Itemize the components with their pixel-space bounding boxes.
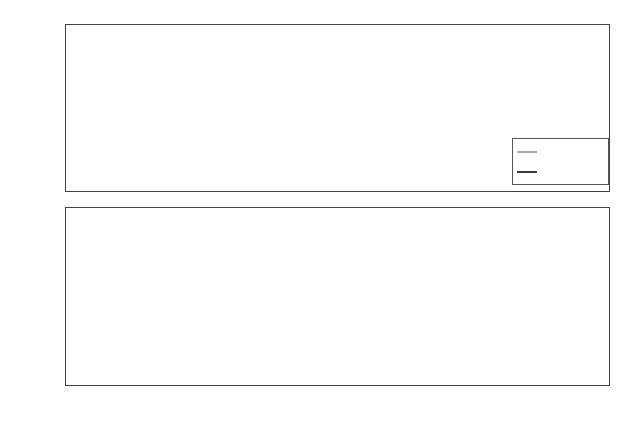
legend-item-nonsurvival (517, 162, 604, 182)
legend-item-survival (517, 142, 604, 162)
legend (512, 138, 609, 185)
legend-line-icon (517, 151, 537, 153)
bottom-chart-x-tick-labels (65, 390, 610, 446)
figure-root (0, 0, 630, 446)
legend-line-icon (517, 171, 537, 173)
percent-bar-chart (65, 207, 610, 386)
